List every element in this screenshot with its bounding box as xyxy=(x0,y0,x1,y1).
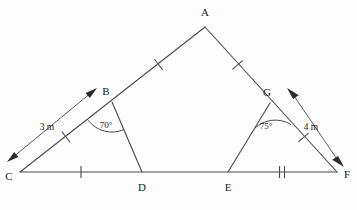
triangle-outline xyxy=(20,27,337,172)
left-dimension-arrowhead-start xyxy=(7,152,18,162)
segment-AF xyxy=(205,27,337,172)
angle-labels-group: 70° 75° xyxy=(100,120,273,131)
angle-label-B: 70° xyxy=(100,120,113,130)
vertex-labels-group: A B C D E F G xyxy=(5,6,350,193)
segment-CA xyxy=(20,27,205,172)
geometry-diagram: A B C D E F G 70° 75° 3 m 4 m xyxy=(0,0,357,210)
vertex-label-A: A xyxy=(201,6,209,18)
vertex-label-E: E xyxy=(225,181,232,193)
tick-marks-group xyxy=(62,60,308,178)
segment-GE xyxy=(228,103,270,172)
vertex-label-D: D xyxy=(138,181,146,193)
left-dimension-arrowhead-end xyxy=(86,88,97,98)
measure-label-left: 3 m xyxy=(40,122,55,132)
vertex-label-C: C xyxy=(5,170,12,182)
vertex-label-F: F xyxy=(344,168,350,180)
segment-BD xyxy=(112,102,142,172)
right-dimension-arrowhead-end xyxy=(332,156,344,167)
vertex-label-B: B xyxy=(102,85,109,97)
vertex-label-G: G xyxy=(263,86,271,98)
measure-label-right: 4 m xyxy=(304,122,319,132)
angle-label-G: 75° xyxy=(260,121,273,131)
figure-canvas: A B C D E F G 70° 75° 3 m 4 m xyxy=(0,0,357,210)
right-dimension-arrowhead-start xyxy=(287,88,299,99)
inner-segments xyxy=(112,102,270,172)
